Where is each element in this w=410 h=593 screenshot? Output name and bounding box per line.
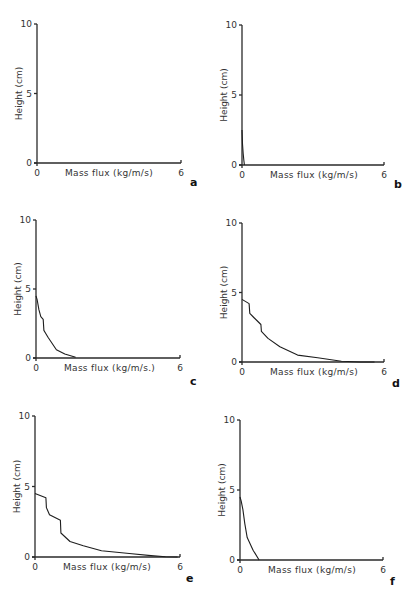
mass-flux-profile-line: [242, 299, 375, 362]
y-tick-label: 5: [24, 482, 30, 492]
panel-e: 051006Mass flux (kg/m/s)Height (cm)e: [12, 411, 193, 585]
panel-label: b: [394, 178, 402, 191]
y-tick-label: 5: [229, 485, 235, 495]
mass-flux-profile-line: [35, 494, 178, 557]
y-axis-label: Height (cm): [217, 463, 227, 516]
y-axis-label: Height (cm): [14, 67, 24, 120]
x-tick-label: 6: [380, 565, 386, 575]
x-tick-label: 0: [237, 565, 243, 575]
x-axis-label: Mass flux (kg/m/s): [63, 562, 151, 572]
panel-label: a: [190, 176, 197, 189]
y-tick-label: 10: [19, 411, 31, 421]
panel-a: 051006Mass flux (kg/m/s)Height (cm)a: [14, 19, 197, 189]
y-axis-label: Height (cm): [13, 262, 23, 315]
y-tick-label: 5: [25, 284, 31, 294]
y-tick-label: 0: [25, 353, 31, 363]
y-tick-label: 0: [26, 158, 32, 168]
x-axis-label: Mass flux (kg/m/s): [65, 168, 153, 178]
panel-c: 051006Mass flux (kg/m/s.)Height (cm)c: [13, 215, 197, 388]
y-tick-label: 0: [231, 160, 237, 170]
x-axis-label: Mass flux (kg/m/s): [270, 170, 358, 180]
x-tick-label: 6: [177, 562, 183, 572]
y-axis-label: Height (cm): [219, 266, 229, 319]
y-tick-label: 10: [21, 19, 33, 29]
y-axis-label: Height (cm): [12, 460, 22, 513]
x-tick-label: 6: [381, 170, 387, 180]
x-tick-label: 6: [178, 168, 184, 178]
panel-f: 051006Mass flux (kg/m/s)Height (cm)f: [217, 415, 395, 588]
x-tick-label: 0: [239, 170, 245, 180]
figure-canvas: 051006Mass flux (kg/m/s)Height (cm)a0510…: [0, 0, 410, 593]
x-tick-label: 6: [177, 363, 183, 373]
x-tick-label: 0: [32, 562, 38, 572]
x-tick-label: 0: [239, 367, 245, 377]
panel-d: 051006Mass flux (kg/m/s)Height (cm)d: [219, 218, 400, 390]
mass-flux-profile-line: [240, 497, 259, 560]
panel-label: c: [190, 375, 197, 388]
panel-label: e: [186, 572, 193, 585]
y-tick-label: 0: [229, 555, 235, 565]
mass-flux-profile-line: [36, 296, 76, 357]
panel-label: d: [392, 377, 400, 390]
y-tick-label: 10: [226, 218, 238, 228]
x-axis-label: Mass flux (kg/m/s.): [64, 363, 155, 373]
y-tick-label: 0: [231, 357, 237, 367]
x-tick-label: 0: [33, 363, 39, 373]
x-axis-label: Mass flux (kg/m/s): [268, 565, 356, 575]
y-tick-label: 10: [20, 215, 32, 225]
panel-b: 051006Mass flux (kg/m/s)Height (cm)b: [219, 20, 402, 191]
y-tick-label: 5: [231, 90, 237, 100]
y-tick-label: 5: [231, 288, 237, 298]
y-tick-label: 0: [24, 552, 30, 562]
x-tick-label: 0: [34, 168, 40, 178]
panel-label: f: [390, 575, 395, 588]
y-tick-label: 10: [226, 20, 238, 30]
x-tick-label: 6: [381, 367, 387, 377]
y-tick-label: 10: [224, 415, 236, 425]
x-axis-label: Mass flux (kg/m/s): [270, 367, 358, 377]
y-axis-label: Height (cm): [219, 68, 229, 121]
y-tick-label: 5: [26, 89, 32, 99]
